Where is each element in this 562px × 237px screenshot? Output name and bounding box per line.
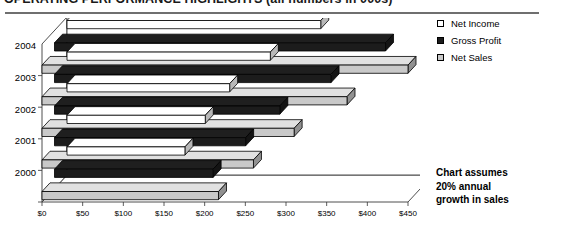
x-axis-tick-label: $150: [147, 209, 181, 218]
x-axis-tick-label: $300: [269, 209, 303, 218]
bar-2000-gross-profit: [55, 161, 222, 178]
bar-chart-graphic: [20, 18, 420, 218]
legend-item-net-income[interactable]: Net Income: [437, 18, 557, 29]
legend-label-net-sales: Net Sales: [451, 52, 492, 63]
chart-page: OPERATING PERFORMANCE HIGHLIGHTS (all nu…: [0, 0, 562, 237]
legend-item-gross-profit[interactable]: Gross Profit: [437, 35, 557, 46]
chart-annotation: Chart assumes 20% annual growth in sales: [436, 166, 560, 207]
chart-title-container: OPERATING PERFORMANCE HIGHLIGHTS (all nu…: [4, 0, 504, 9]
x-axis-tick-label: $0: [25, 209, 59, 218]
chart-title-main: OPERATING PERFORMANCE HIGHLIGHTS: [4, 0, 263, 6]
legend-label-gross-profit: Gross Profit: [451, 35, 501, 46]
annotation-line-2: 20% annual: [436, 180, 560, 194]
x-axis-tick-label: $100: [106, 209, 140, 218]
page-title: OPERATING PERFORMANCE HIGHLIGHTS (all nu…: [4, 0, 504, 7]
net-sales-swatch-icon: [437, 54, 444, 61]
x-axis-tick-label: $450: [391, 209, 425, 218]
legend-label-net-income: Net Income: [451, 18, 500, 29]
net-income-swatch-icon: [437, 20, 444, 27]
x-axis-tick-label: $350: [310, 209, 344, 218]
chart-plot-area: [20, 18, 420, 210]
bar-2003-net-income: [67, 43, 278, 60]
x-axis-tick-label: $50: [66, 209, 100, 218]
bar-2004-net-income: [67, 18, 329, 29]
y-axis-category-label-2000: 2000: [2, 168, 36, 178]
annotation-line-3: growth in sales: [436, 193, 560, 207]
annotation-line-1: Chart assumes: [436, 166, 560, 180]
title-divider: [5, 12, 539, 14]
x-axis-tick-label: $200: [188, 209, 222, 218]
x-axis-tick-label: $250: [228, 209, 262, 218]
y-axis-category-label-2001: 2001: [2, 136, 36, 146]
gross-profit-swatch-icon: [437, 37, 444, 44]
bar-2000-net-sales: [42, 183, 226, 200]
chart-legend: Net Income Gross Profit Net Sales: [437, 18, 557, 69]
y-axis-category-label-2002: 2002: [2, 105, 36, 115]
bar-2002-net-income: [67, 75, 238, 92]
bar-2001-net-income: [67, 107, 213, 124]
y-axis-category-label-2004: 2004: [2, 41, 36, 51]
x-axis-tick-label: $400: [350, 209, 384, 218]
bar-2000-net-income: [67, 138, 193, 155]
y-axis-category-label-2003: 2003: [2, 73, 36, 83]
chart-title-subtitle: (all numbers in 000s): [266, 0, 392, 6]
legend-item-net-sales[interactable]: Net Sales: [437, 52, 557, 63]
